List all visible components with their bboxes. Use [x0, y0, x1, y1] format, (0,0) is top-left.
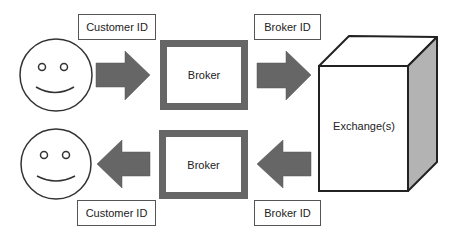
broker-box-bottom: Broker [159, 130, 248, 199]
customer-id-label-top: Customer ID [78, 14, 156, 40]
exchange-cube-icon [319, 36, 437, 191]
arrow-left-icon-2 [257, 140, 311, 188]
customer-smiley-icon-bottom [21, 129, 91, 199]
customer-id-label-bottom: Customer ID [77, 200, 156, 226]
broker-box-top: Broker [160, 40, 248, 110]
customer-smiley-icon-top [20, 39, 92, 111]
exchange-label: Exchange(s) [320, 120, 408, 132]
arrow-left-icon-1 [97, 140, 150, 188]
arrow-right-icon-2 [257, 51, 311, 100]
broker-id-label-bottom: Broker ID [254, 200, 321, 226]
broker-id-label-top: Broker ID [254, 14, 321, 40]
arrow-right-icon-1 [96, 51, 150, 100]
order-flow-diagram: Customer ID Broker ID Customer ID Broker… [0, 0, 458, 239]
